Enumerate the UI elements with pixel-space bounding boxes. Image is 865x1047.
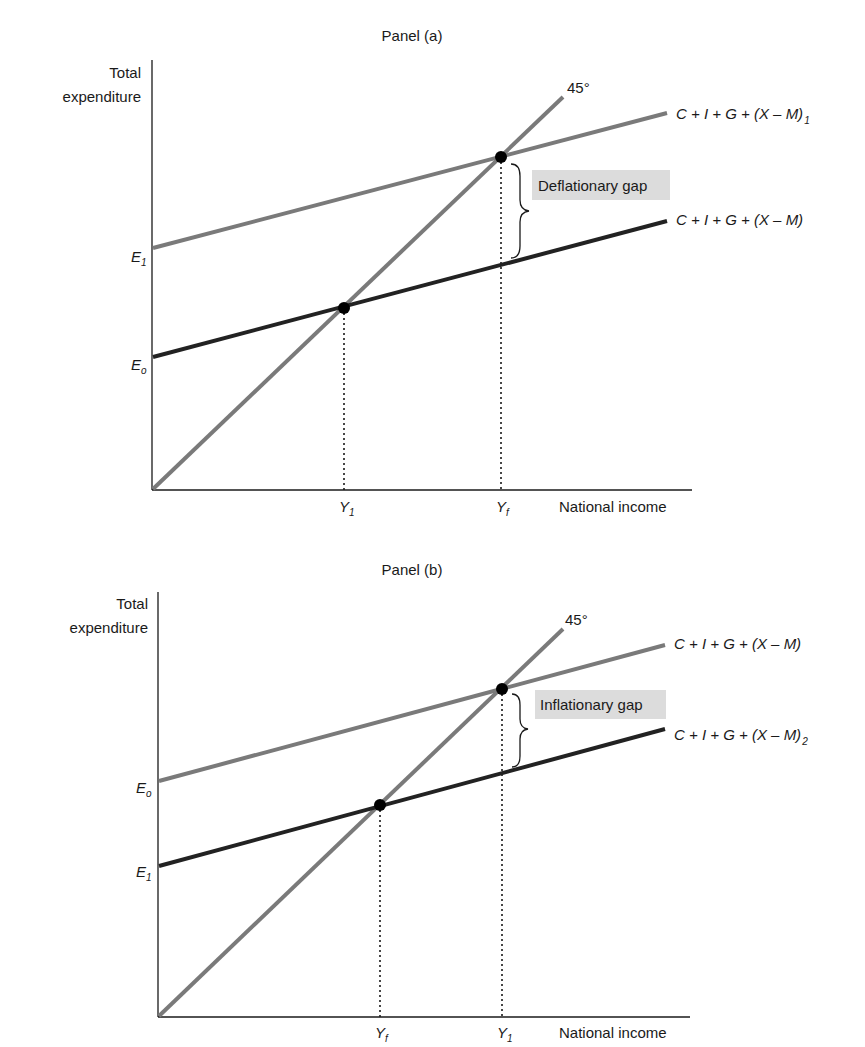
panel-a-equilibrium-point-y1 <box>338 302 350 314</box>
panel-a: Panel (a) Total expenditure Deflationary… <box>63 27 810 518</box>
panel-b-ae2-label: C + I + G + (X – M)2 <box>674 726 808 747</box>
panel-b-ylabel-line2: expenditure <box>70 619 148 636</box>
panel-b-e0-label: Eo <box>136 779 152 799</box>
panel-a-yf-tick: Yf <box>496 498 510 518</box>
panel-a-ae-label: C + I + G + (X – M) <box>676 211 803 228</box>
panel-b-xlabel: National income <box>559 1024 667 1041</box>
panel-b-ae-label: C + I + G + (X – M) <box>674 635 801 652</box>
panel-b-y1-tick: Y1 <box>497 1024 513 1044</box>
panel-a-title: Panel (a) <box>382 27 443 44</box>
panel-b: Panel (b) Total expenditure Inflationary… <box>70 561 809 1044</box>
panel-b-gap-brace-icon <box>512 694 528 767</box>
panel-b-equilibrium-point-y1 <box>496 683 508 695</box>
panel-a-gap-brace-icon <box>511 164 529 258</box>
panel-a-ylabel-line1: Total <box>109 64 141 81</box>
panel-a-e0-label: Eo <box>131 356 147 376</box>
panel-b-gap-label: Inflationary gap <box>540 696 643 713</box>
diagram-canvas: Panel (a) Total expenditure Deflationary… <box>0 0 865 1047</box>
panel-b-equilibrium-point-yf <box>374 799 386 811</box>
panel-b-e1-label: E1 <box>136 863 152 883</box>
panel-a-ylabel-line2: expenditure <box>63 88 141 105</box>
panel-b-ylabel-line1: Total <box>116 595 148 612</box>
panel-a-e1-label: E1 <box>131 248 147 268</box>
panel-a-ae1-label: C + I + G + (X – M)1 <box>676 105 810 126</box>
panel-a-45-label: 45° <box>567 79 590 96</box>
panel-b-title: Panel (b) <box>382 561 443 578</box>
panel-a-equilibrium-point-yf <box>495 151 507 163</box>
panel-a-xlabel: National income <box>559 498 667 515</box>
panel-b-45-label: 45° <box>565 611 588 628</box>
panel-b-yf-tick: Yf <box>375 1024 389 1044</box>
panel-a-y1-tick: Y1 <box>339 498 355 518</box>
panel-b-ae2-line <box>159 729 665 866</box>
panel-a-gap-label: Deflationary gap <box>538 177 647 194</box>
